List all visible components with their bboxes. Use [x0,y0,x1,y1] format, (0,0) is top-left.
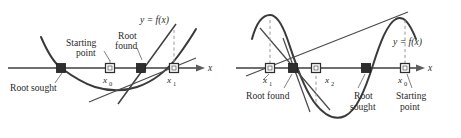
right-label-starting-point-line1: Starting [396,90,427,101]
left-tick-x1: x 1 [166,75,176,87]
left-tick-x1-base: x [166,75,172,85]
right-marker-root-sought [362,64,371,73]
right-leader-root-found [284,74,292,88]
right-x-axis [236,65,425,72]
right-tick-x1: x 1 [262,75,272,87]
left-label-starting-point-line2: point [76,47,96,58]
right-leader-starting-point [407,74,412,88]
right-label-starting-point-line2: point [400,101,420,112]
right-tick-x0-base: x [397,75,403,85]
right-tick-x1-sub: 1 [269,80,272,87]
right-leader-root-sought [358,74,365,88]
left-leader-root-found [137,48,142,60]
left-tick-x1-sub: 1 [173,80,176,87]
left-marker-root-sought [57,64,66,73]
left-marker-root-found [137,64,146,73]
left-label-x-axis: x [207,63,213,73]
left-marker-x0 [106,64,115,73]
left-label-function: y = f(x) [139,14,169,26]
left-label-root-found-line2: found [115,40,138,51]
right-label-root-sought-line1: Root [354,90,373,101]
left-label-root-sought: Root sought [10,82,57,93]
left-leader-starting-point [104,51,110,61]
right-marker-x1 [266,64,275,73]
left-diagram-panel: Starting point Root found Root sought y … [0,0,230,138]
right-label-function: y = f(x) [392,36,422,48]
right-tick-x0-sub: 0 [404,80,407,87]
right-tick-x2-sub: 2 [331,80,334,87]
right-label-x-axis: x [427,63,433,73]
left-marker-x1 [170,64,179,73]
right-function-curve [252,15,416,118]
right-marker-root-found [289,64,298,73]
right-marker-x0 [401,64,410,73]
right-tick-x2-base: x [324,75,330,85]
right-tick-x2: x 2 [324,75,334,87]
newton-method-figure: Starting point Root found Root sought y … [0,0,461,138]
right-label-root-sought-line2: sought [350,101,376,112]
left-tick-x0-sub: 0 [109,80,112,87]
left-tick-x0-base: x [102,75,108,85]
right-label-root-found: Root found [246,90,290,101]
left-tick-x0: x 0 [102,75,112,87]
right-marker-x2 [312,64,321,73]
right-diagram-panel: Root found Root sought Starting point y … [230,0,461,138]
right-tick-x0: x 0 [397,75,407,87]
